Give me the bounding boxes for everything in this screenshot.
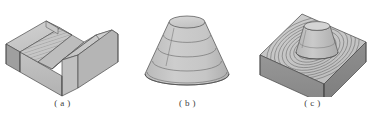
figure-caption-a: ( a ) [0, 97, 125, 110]
figure-caption-c: ( c ) [250, 97, 375, 110]
figure-caption-b: ( b ) [125, 97, 250, 110]
contoured-base-geometry [258, 4, 369, 97]
v-block-illustration [0, 0, 125, 97]
figure-cell-c: ( c ) [250, 0, 375, 119]
cone-boss-top-face [304, 22, 330, 31]
cone-boss-body [296, 26, 338, 59]
cone-top-face [169, 16, 205, 28]
figure-cell-a: ( a ) [0, 0, 125, 119]
contoured-base-illustration [250, 0, 375, 97]
v-block-geometry [6, 21, 118, 96]
stepped-cone-illustration [125, 0, 250, 97]
figure-plate: ( a ) [0, 0, 376, 119]
figure-cell-b: ( b ) [125, 0, 250, 119]
stepped-cone-geometry [145, 16, 229, 85]
